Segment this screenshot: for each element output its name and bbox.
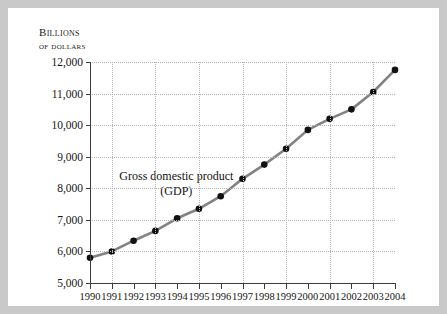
y-axis-tick-label: 11,000 [52,88,83,100]
x-axis-tick-label: 1990 [80,291,101,302]
data-point-marker [305,127,312,134]
x-axis-tick [112,284,113,289]
y-axis-tick [86,94,91,95]
chart-frame: Billions of dollars Gross domestic produ… [8,8,439,306]
x-axis-tick-label: 1993 [145,291,166,302]
x-axis-tick-label: 1996 [210,291,231,302]
x-axis-tick-label: 1991 [101,291,122,302]
x-axis-tick [330,284,331,289]
y-axis-tick [86,62,91,63]
y-axis-tick-label: 7,000 [57,214,83,226]
x-axis: 1990199119921993199419951996199719981999… [90,283,396,284]
x-axis-tick [134,284,135,289]
x-axis-tick-label: 2003 [363,291,384,302]
gridline-vertical [199,62,200,283]
gridline-vertical [286,62,287,283]
x-axis-tick-label: 2002 [341,291,362,302]
x-axis-tick [395,284,396,289]
x-axis-tick-label: 1999 [276,291,297,302]
data-point-marker [348,106,355,113]
x-axis-tick [351,284,352,289]
annotation-line1: Gross domestic product [119,169,233,183]
y-axis-tick-label: 6,000 [57,245,83,257]
plot-area: Gross domestic product (GDP) [90,62,395,283]
x-axis-tick [221,284,222,289]
x-axis-tick-label: 1998 [254,291,275,302]
x-axis-tick [373,284,374,289]
x-axis-tick-label: 1992 [123,291,144,302]
x-axis-tick [155,284,156,289]
y-axis-tick [86,125,91,126]
gridline-vertical [330,62,331,283]
y-axis-tick-label: 9,000 [57,151,83,163]
x-axis-tick-label: 1994 [167,291,188,302]
data-point-marker [261,161,268,168]
y-axis-tick [86,188,91,189]
x-axis-tick [243,284,244,289]
y-axis-title: Billions of dollars [39,26,86,52]
x-axis-tick [264,284,265,289]
y-axis: 5,0006,0007,0008,0009,00010,00011,00012,… [90,62,91,284]
y-axis-tick [86,251,91,252]
x-axis-tick-label: 1997 [232,291,253,302]
y-axis-tick [86,220,91,221]
y-axis-tick-label: 10,000 [51,119,83,131]
x-axis-tick [308,284,309,289]
gridline-vertical [155,62,156,283]
x-axis-tick [199,284,200,289]
x-axis-tick [286,284,287,289]
y-axis-tick-label: 5,000 [57,277,83,289]
annotation-line2: (GDP) [160,184,192,198]
y-axis-title-line2: of dollars [39,39,86,52]
x-axis-tick-label: 2001 [319,291,340,302]
y-axis-tick-label: 12,000 [51,56,83,68]
series-annotation-label: Gross domestic product (GDP) [119,169,233,199]
y-axis-tick [86,157,91,158]
data-point-marker [392,67,399,74]
x-axis-tick-label: 2000 [297,291,318,302]
data-point-marker [130,237,137,244]
y-axis-title-line1: Billions [39,26,86,39]
gridline-vertical [243,62,244,283]
gridline-vertical [112,62,113,283]
gridline-vertical [373,62,374,283]
x-axis-tick [177,284,178,289]
x-axis-tick-label: 2004 [385,291,406,302]
x-axis-tick [90,284,91,289]
y-axis-tick-label: 8,000 [57,182,83,194]
x-axis-tick-label: 1995 [188,291,209,302]
